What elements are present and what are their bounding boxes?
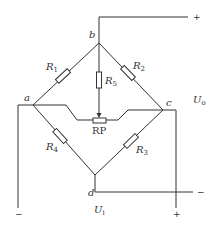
input-minus-wire bbox=[18, 105, 33, 208]
label-r2: R2 bbox=[132, 60, 145, 73]
label-r5: R5 bbox=[104, 75, 117, 88]
output-plus-wire bbox=[99, 17, 188, 43]
bridge-circuit-diagram: + R1 R2 R4 R3 R5 RP − + − b a c d Uo Ui bbox=[0, 0, 217, 230]
node-label-a: a bbox=[24, 92, 30, 103]
node-label-c: c bbox=[166, 97, 172, 108]
wire-rp-left bbox=[33, 105, 93, 120]
input-minus-terminal: − bbox=[15, 209, 23, 219]
output-minus-wire bbox=[95, 175, 193, 192]
wiper-arrow-icon bbox=[97, 113, 102, 118]
label-r1: R1 bbox=[45, 61, 58, 74]
potentiometer-rp bbox=[93, 118, 106, 123]
input-plus-terminal: + bbox=[173, 209, 181, 219]
label-input-voltage: Ui bbox=[94, 204, 105, 217]
label-r4: R4 bbox=[45, 141, 59, 154]
resistor-r4 bbox=[53, 128, 67, 143]
label-r3: R3 bbox=[135, 144, 148, 157]
input-plus-wire bbox=[163, 110, 176, 208]
label-rp: RP bbox=[92, 125, 107, 136]
node-label-d: d bbox=[88, 187, 94, 198]
output-minus-terminal: − bbox=[197, 187, 205, 197]
label-output-voltage: Uo bbox=[193, 94, 206, 107]
output-plus-terminal: + bbox=[193, 12, 201, 22]
node-label-b: b bbox=[89, 29, 95, 40]
resistor-r5 bbox=[97, 72, 102, 88]
